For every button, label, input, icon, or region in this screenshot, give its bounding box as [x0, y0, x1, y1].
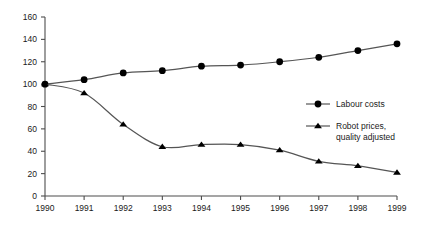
y-tick-label: 140: [23, 34, 37, 44]
x-tick-label: 1994: [192, 203, 211, 213]
legend-label-line2: quality adjusted: [336, 132, 395, 142]
y-tick-label: 80: [28, 102, 38, 112]
circle-marker-icon: [315, 101, 322, 108]
x-axis-tick-group: 1990199119921993199419951996199719981999: [36, 196, 407, 213]
y-tick-label: 20: [28, 169, 38, 179]
y-axis-tick-group: 020406080100120140160: [23, 12, 45, 201]
x-tick-label: 1992: [114, 203, 133, 213]
data-point-marker: [81, 76, 88, 83]
x-tick-label: 1999: [388, 203, 407, 213]
data-point-marker: [315, 54, 322, 61]
line-chart-plot: 020406080100120140160 199019911992199319…: [0, 0, 423, 229]
x-tick-label: 1995: [231, 203, 250, 213]
x-tick-label: 1996: [270, 203, 289, 213]
chart-container: 020406080100120140160 199019911992199319…: [0, 0, 423, 229]
legend-label: Robot prices,: [336, 121, 386, 131]
y-tick-label: 60: [28, 124, 38, 134]
x-tick-label: 1998: [348, 203, 367, 213]
data-point-marker: [354, 47, 361, 54]
data-point-marker: [394, 40, 401, 47]
y-tick-label: 100: [23, 79, 37, 89]
data-point-marker: [198, 63, 205, 70]
data-point-marker: [80, 90, 88, 95]
data-point-marker: [276, 58, 283, 65]
data-point-marker: [159, 67, 166, 74]
x-tick-label: 1993: [153, 203, 172, 213]
y-tick-label: 40: [28, 146, 38, 156]
y-tick-label: 160: [23, 12, 37, 22]
y-tick-label: 0: [32, 191, 37, 201]
x-tick-label: 1997: [309, 203, 328, 213]
y-tick-label: 120: [23, 57, 37, 67]
data-point-marker: [120, 70, 127, 77]
chart-legend: Labour costsRobot prices,quality adjuste…: [306, 99, 395, 142]
series-line-0: [45, 44, 397, 84]
x-tick-label: 1990: [36, 203, 55, 213]
x-tick-label: 1991: [75, 203, 94, 213]
data-point-marker: [237, 62, 244, 69]
legend-label: Labour costs: [336, 99, 385, 109]
